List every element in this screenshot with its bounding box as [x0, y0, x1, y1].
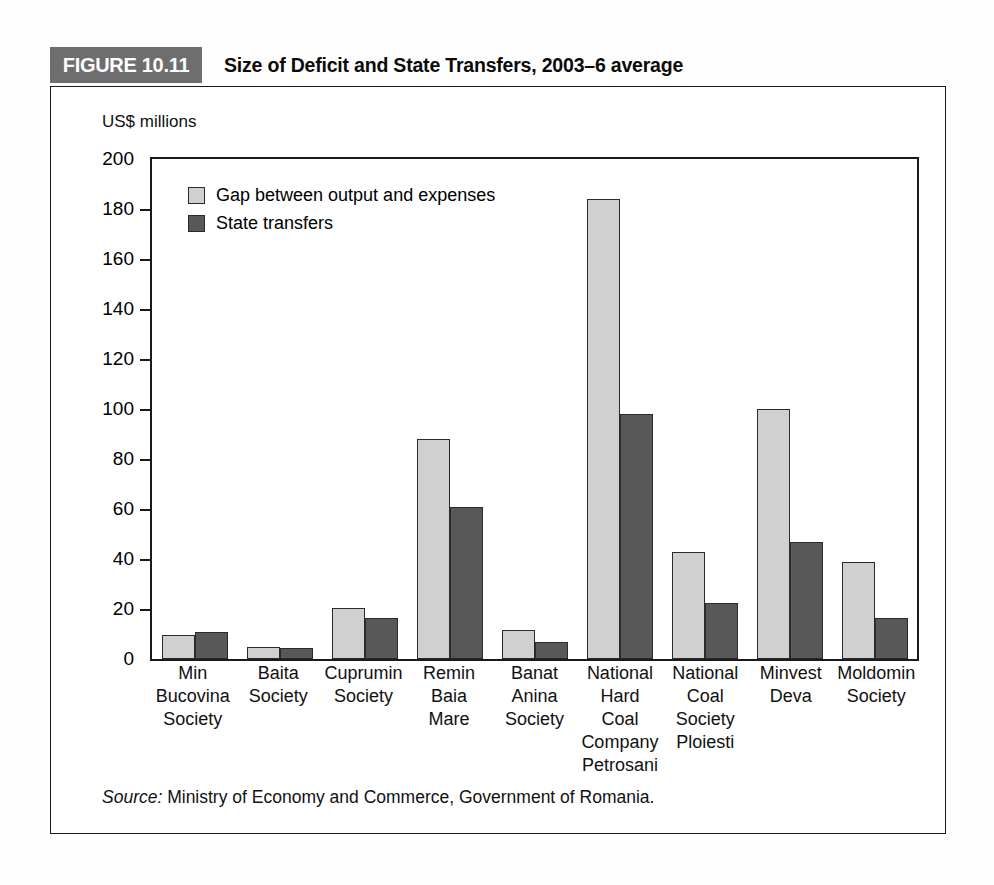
x-axis-category-line: Society	[663, 708, 748, 731]
x-axis-category-line: Mare	[406, 708, 491, 731]
bar-gap	[162, 635, 195, 659]
x-axis-category-line: Baia	[406, 685, 491, 708]
y-axis-tick	[140, 609, 152, 611]
bar-gap	[332, 608, 365, 659]
bar-gap	[757, 409, 790, 659]
bar-group	[152, 159, 237, 659]
y-axis-tick	[140, 559, 152, 561]
bar-state-transfers	[280, 648, 313, 659]
bar-group	[492, 159, 577, 659]
bar-gap	[672, 552, 705, 660]
bar-state-transfers	[875, 618, 908, 659]
x-axis-category-line: Society	[834, 685, 919, 708]
x-axis-category-label: ReminBaiaMare	[406, 662, 491, 777]
y-axis-tick	[140, 309, 152, 311]
y-axis-tick-label: 100	[102, 398, 134, 420]
x-axis-category-label: MinBucovinaSociety	[150, 662, 235, 777]
plot-inner: 020406080100120140160180200 Gap between …	[152, 159, 917, 659]
x-axis-category-label: BanatAninaSociety	[492, 662, 577, 777]
bar-state-transfers	[195, 632, 228, 660]
y-axis-tick-label: 120	[102, 348, 134, 370]
bar-group	[237, 159, 322, 659]
x-axis-category-line: Moldomin	[834, 662, 919, 685]
x-axis-labels: MinBucovinaSocietyBaitaSocietyCupruminSo…	[150, 662, 919, 777]
x-axis-category-label: BaitaSociety	[235, 662, 320, 777]
bar-group	[832, 159, 917, 659]
x-axis-category-line: Society	[321, 685, 406, 708]
x-axis-category-line: Baita	[235, 662, 320, 685]
x-axis-category-line: Banat	[492, 662, 577, 685]
x-axis-category-line: Remin	[406, 662, 491, 685]
y-axis-tick	[140, 409, 152, 411]
bar-group	[747, 159, 832, 659]
x-axis-category-line: Cuprumin	[321, 662, 406, 685]
bar-gap	[842, 562, 875, 660]
y-axis-tick	[140, 209, 152, 211]
x-axis-category-line: Deva	[748, 685, 833, 708]
x-axis-category-label: CupruminSociety	[321, 662, 406, 777]
x-axis-category-line: National	[663, 662, 748, 685]
source-text: Ministry of Economy and Commerce, Govern…	[162, 787, 654, 807]
x-axis-category-label: MinvestDeva	[748, 662, 833, 777]
source-prefix: Source:	[102, 787, 162, 807]
x-axis-category-line: National	[577, 662, 662, 685]
y-axis-tick	[140, 509, 152, 511]
figure-title: Size of Deficit and State Transfers, 200…	[202, 47, 948, 83]
bar-state-transfers	[790, 542, 823, 660]
x-axis-category-line: Petrosani	[577, 754, 662, 777]
bar-state-transfers	[620, 414, 653, 659]
bar-state-transfers	[450, 507, 483, 660]
figure-page: FIGURE 10.11 Size of Deficit and State T…	[0, 0, 994, 885]
x-axis-category-label: NationalCoalSocietyPloiesti	[663, 662, 748, 777]
figure-header: FIGURE 10.11 Size of Deficit and State T…	[50, 47, 948, 83]
source-note: Source: Ministry of Economy and Commerce…	[102, 787, 654, 808]
y-axis-tick-label: 60	[113, 498, 134, 520]
x-axis-category-line: Anina	[492, 685, 577, 708]
y-axis-tick-label: 160	[102, 248, 134, 270]
x-axis-category-line: Hard	[577, 685, 662, 708]
bar-group	[322, 159, 407, 659]
plot-area: 020406080100120140160180200 Gap between …	[150, 157, 919, 661]
x-axis-category-line: Society	[150, 708, 235, 731]
y-axis-unit-label: US$ millions	[102, 112, 196, 132]
y-axis-tick-label: 20	[113, 598, 134, 620]
x-axis-category-line: Coal	[577, 708, 662, 731]
y-axis-tick-label: 80	[113, 448, 134, 470]
bar-group	[577, 159, 662, 659]
y-axis-tick	[140, 359, 152, 361]
x-axis-category-line: Company	[577, 731, 662, 754]
x-axis-category-label: MoldominSociety	[834, 662, 919, 777]
bar-gap	[502, 630, 535, 659]
x-axis-category-line: Ploiesti	[663, 731, 748, 754]
y-axis-tick	[140, 459, 152, 461]
bar-state-transfers	[705, 603, 738, 659]
y-axis-tick-label: 40	[113, 548, 134, 570]
bar-state-transfers	[365, 618, 398, 659]
y-axis-tick-label: 200	[102, 148, 134, 170]
bar-state-transfers	[535, 642, 568, 660]
bar-group	[407, 159, 492, 659]
figure-number-tag: FIGURE 10.11	[50, 47, 202, 83]
bar-gap	[587, 199, 620, 659]
y-axis-tick-label: 180	[102, 198, 134, 220]
x-axis-category-line: Min	[150, 662, 235, 685]
bar-gap	[417, 439, 450, 659]
x-axis-category-label: NationalHardCoalCompanyPetrosani	[577, 662, 662, 777]
y-axis-tick-label: 0	[123, 648, 134, 670]
bar-group	[662, 159, 747, 659]
x-axis-category-line: Minvest	[748, 662, 833, 685]
x-axis-category-line: Coal	[663, 685, 748, 708]
x-axis-category-line: Society	[492, 708, 577, 731]
bar-groups	[152, 159, 917, 659]
bar-gap	[247, 647, 280, 660]
y-axis-tick-label: 140	[102, 298, 134, 320]
x-axis-category-line: Bucovina	[150, 685, 235, 708]
y-axis-tick	[140, 259, 152, 261]
x-axis-category-line: Society	[235, 685, 320, 708]
